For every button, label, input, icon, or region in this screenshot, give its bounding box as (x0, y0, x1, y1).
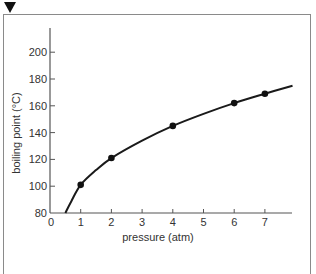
y-axis: 80100120140160180200 (29, 28, 55, 219)
x-tick-label: 2 (108, 216, 114, 228)
data-point-marker (231, 100, 238, 107)
y-tick-label: 100 (29, 180, 47, 192)
data-points (77, 90, 268, 188)
data-point-marker (170, 123, 177, 130)
data-point-marker (108, 155, 115, 162)
y-tick-label: 200 (29, 46, 47, 58)
x-tick-label: 6 (231, 216, 237, 228)
x-tick-label: 7 (262, 216, 268, 228)
x-tick-label: 1 (78, 216, 84, 228)
y-tick-label: 140 (29, 127, 47, 139)
x-tick-label: 4 (170, 216, 176, 228)
y-tick-label: 80 (35, 207, 47, 219)
data-point-marker (77, 182, 84, 189)
x-axis-title: pressure (atm) (122, 231, 194, 243)
data-point-marker (262, 90, 269, 97)
x-tick-label: 3 (139, 216, 145, 228)
x-tick-label: 0 (48, 216, 54, 228)
x-axis: 01234567 (48, 209, 292, 228)
data-curve (65, 86, 292, 213)
y-tick-label: 120 (29, 153, 47, 165)
x-tick-label: 5 (200, 216, 206, 228)
y-tick-label: 180 (29, 73, 47, 85)
y-axis-title: boiling point (°C) (10, 92, 22, 173)
y-tick-label: 160 (29, 100, 47, 112)
